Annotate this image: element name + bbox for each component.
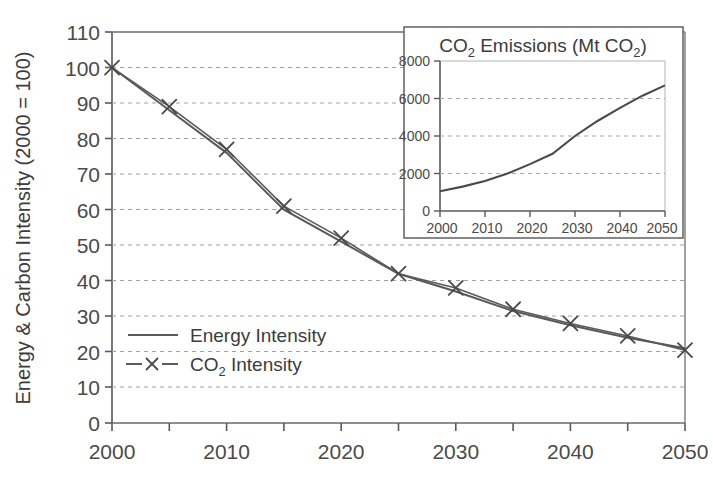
legend-energy-label: Energy Intensity: [190, 325, 327, 346]
inset-y-tick-label: 4000: [399, 128, 430, 144]
x-tick-label: 2040: [547, 440, 594, 463]
energy-carbon-intensity-chart: 110 100 90 80 70 60 50 40 30 20 10 0: [0, 0, 713, 488]
legend-co2-label-subscript: 2: [219, 364, 226, 379]
y-tick-label: 20: [77, 341, 100, 364]
legend-co2-label-suffix: Intensity: [226, 354, 303, 375]
inset-title-suffix: ): [640, 35, 646, 56]
y-tick-label: 30: [77, 305, 100, 328]
inset-y-tick-label: 8000: [399, 53, 430, 69]
figure-container: 110 100 90 80 70 60 50 40 30 20 10 0: [0, 0, 713, 488]
inset-frame: [404, 27, 683, 238]
inset-x-tick-label: 2020: [516, 220, 547, 236]
inset-chart: CO2 Emissions (Mt CO2): [399, 27, 683, 238]
inset-x-tick-label: 2000: [426, 220, 457, 236]
x-tick-label: 2020: [318, 440, 365, 463]
inset-title-subscript-2: 2: [633, 45, 640, 60]
inset-x-tick-label: 2040: [606, 220, 637, 236]
y-tick-label: 10: [77, 376, 100, 399]
y-tick-label: 110: [67, 21, 100, 44]
y-tick-label: 90: [77, 92, 100, 115]
y-tick-label: 70: [77, 163, 100, 186]
inset-y-tick-label: 6000: [399, 91, 430, 107]
y-tick-label: 60: [77, 199, 100, 222]
y-tick-label: 80: [77, 128, 100, 151]
x-tick-label: 2050: [662, 440, 709, 463]
y-tick-label: 100: [65, 57, 100, 80]
x-tick-label: 2010: [203, 440, 250, 463]
legend-co2-label-prefix: CO: [190, 354, 219, 375]
inset-x-tick-label: 2010: [471, 220, 502, 236]
inset-x-tick-label: 2030: [561, 220, 592, 236]
inset-title-mid: Emissions (Mt CO: [475, 35, 633, 56]
y-tick-label: 40: [77, 270, 100, 293]
inset-y-tick-label: 2000: [399, 166, 430, 182]
x-tick-label: 2030: [432, 440, 479, 463]
inset-title-prefix: CO: [439, 35, 468, 56]
inset-x-tick-label: 2050: [646, 220, 677, 236]
inset-y-tick-label: 0: [422, 203, 430, 219]
y-tick-label: 50: [77, 234, 100, 257]
y-axis-title: Energy & Carbon Intensity (2000 = 100): [12, 52, 34, 405]
inset-title-subscript-1: 2: [468, 45, 475, 60]
x-tick-label: 2000: [89, 440, 136, 463]
y-tick-label: 0: [88, 412, 100, 435]
